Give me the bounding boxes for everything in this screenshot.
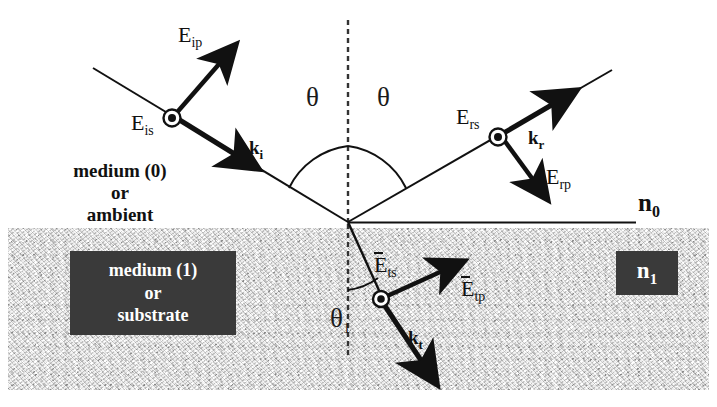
transmitted-p-field-label: Etp <box>461 278 485 304</box>
incident-p-field-arrow <box>173 48 233 117</box>
reflection-angle-arc <box>348 146 406 188</box>
medium-0-line3: ambient <box>30 204 210 226</box>
medium-1-box: medium (1) or substrate <box>70 251 236 335</box>
reflection-angle-label: θ <box>377 84 390 111</box>
figure-canvas: θ θ θ1 Eip Eis ki Ers kr Erp Ets Etp kt … <box>0 0 717 407</box>
medium-0-line2: or <box>30 182 210 204</box>
incidence-angle-arc <box>289 146 348 188</box>
refractive-index-n1-box: n1 <box>616 251 678 295</box>
transmitted-wavevector-label: kt <box>408 328 423 351</box>
incident-s-field-marker-dot <box>168 114 176 122</box>
refractive-index-n0-label: n0 <box>638 190 660 220</box>
reflected-wavevector-label: kr <box>528 128 544 151</box>
transmitted-s-field-marker-dot <box>377 295 385 303</box>
reflected-s-field-label: Ers <box>456 106 480 132</box>
medium-0-line1: medium (0) <box>30 160 210 182</box>
medium-1-line3: substrate <box>118 304 189 327</box>
incident-wavevector-label: ki <box>249 138 263 161</box>
incident-s-field-label: Eis <box>131 112 154 138</box>
reflected-p-field-label: Erp <box>546 166 571 192</box>
incidence-angle-label: θ <box>306 84 319 111</box>
refractive-index-n1-label: n1 <box>637 258 657 288</box>
medium-0-label: medium (0) or ambient <box>30 160 210 226</box>
refraction-angle-label: θ1 <box>330 305 350 336</box>
incident-p-field-label: Eip <box>178 24 202 50</box>
medium-1-line1: medium (1) <box>109 259 198 282</box>
reflected-s-field-marker-dot <box>494 133 502 141</box>
medium-1-line2: or <box>145 282 162 305</box>
incident-wavevector-arrow <box>178 119 254 166</box>
transmitted-s-field-label: Ets <box>374 254 397 280</box>
